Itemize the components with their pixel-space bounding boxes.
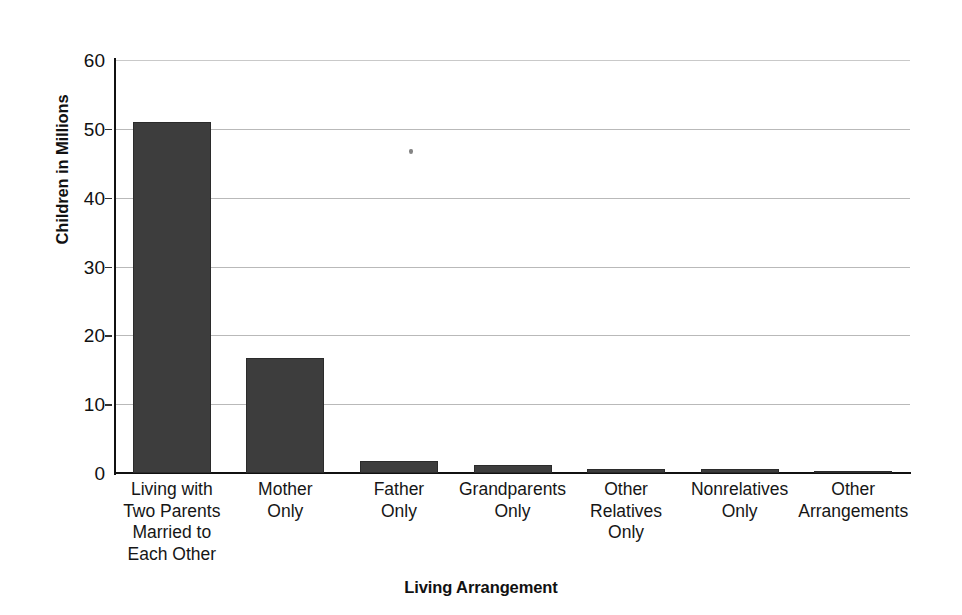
y-tick-label-30: 30 — [59, 258, 105, 277]
x-axis-title: Living Arrangement — [0, 578, 962, 597]
bar — [360, 461, 438, 473]
bar — [474, 465, 552, 473]
y-tick-mark-20 — [105, 335, 112, 337]
x-axis-category-labels: Living withTwo ParentsMarried toEach Oth… — [115, 479, 910, 569]
bar — [587, 469, 665, 473]
bar — [133, 122, 211, 473]
y-tick-label-40: 40 — [59, 189, 105, 208]
scan-artifact-speck — [409, 149, 413, 154]
bars-layer — [115, 60, 910, 473]
y-tick-label-60: 60 — [59, 51, 105, 70]
y-tick-mark-10 — [105, 404, 112, 406]
y-tick-mark-40 — [105, 198, 112, 200]
bar-chart: Children in Millions 0102030405060 Livin… — [0, 0, 962, 615]
y-tick-label-20: 20 — [59, 326, 105, 345]
y-tick-mark-30 — [105, 267, 112, 269]
bar — [701, 469, 779, 473]
x-label-line: Arrangements — [783, 501, 923, 523]
x-axis-label: OtherArrangements — [783, 479, 923, 522]
x-label-line: Each Other — [102, 544, 242, 566]
y-axis-ticks: 0102030405060 — [55, 60, 105, 473]
bar — [814, 471, 892, 473]
x-label-line: Only — [556, 522, 696, 544]
y-tick-label-0: 0 — [59, 464, 105, 483]
y-tick-label-50: 50 — [59, 120, 105, 139]
y-tick-mark-50 — [105, 129, 112, 131]
y-tick-label-10: 10 — [59, 395, 105, 414]
x-label-line: Married to — [102, 522, 242, 544]
bar — [246, 358, 324, 473]
x-label-line: Other — [783, 479, 923, 501]
